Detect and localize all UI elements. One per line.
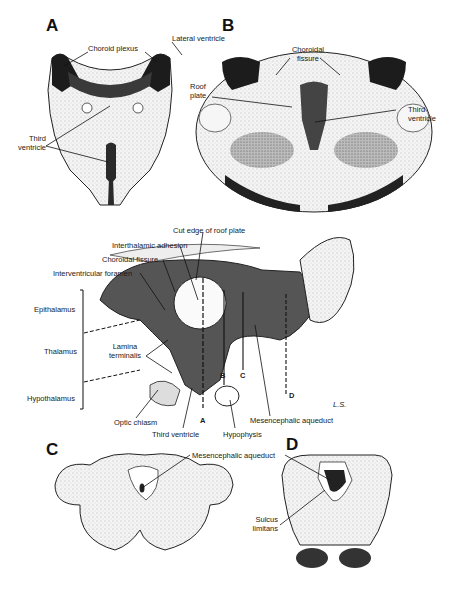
label-line-2: limitans xyxy=(253,524,278,533)
panel-b-drawing xyxy=(196,52,432,212)
label-interventricular-foramen: Interventricular foramen xyxy=(53,269,132,278)
label-hypophysis: Hypophysis xyxy=(223,430,262,439)
label-third-ventricle-a: Third ventricle xyxy=(12,134,46,152)
label-choroid-plexus: Choroid plexus xyxy=(88,44,138,53)
label-optic-chiasm: Optic chiasm xyxy=(114,418,157,427)
label-line-1: Roof xyxy=(190,82,206,91)
label-roof-plate: Roof plate xyxy=(190,82,206,100)
label-third-ventricle-b: Third ventricle xyxy=(408,105,436,123)
label-line-2: terminalis xyxy=(109,351,141,360)
label-choroidal-fissure: Choroidal fissure xyxy=(102,255,158,264)
label-hypothalamus: Hypothalamus xyxy=(27,394,75,403)
panel-c-letter: C xyxy=(46,440,58,460)
label-line-1: Lamina xyxy=(113,342,138,351)
label-ls: L.S. xyxy=(333,400,346,409)
panel-a-drawing xyxy=(48,54,172,205)
label-epithalamus: Epithalamus xyxy=(34,305,75,314)
panel-b-letter: B xyxy=(222,16,234,36)
label-choroidal-fissure-b: Choroidal fissure xyxy=(286,45,330,63)
section-marker-a: A xyxy=(200,416,205,425)
panel-d-letter: D xyxy=(286,435,298,455)
label-line-2: fissure xyxy=(297,54,319,63)
label-sulcus-limitans: Sulcus limitans xyxy=(244,515,278,533)
label-line-2: ventricle xyxy=(18,143,46,152)
section-marker-c: C xyxy=(240,371,245,380)
label-line-1: Sulcus xyxy=(255,515,278,524)
panel-c-drawing xyxy=(55,454,233,550)
section-marker-d: D xyxy=(289,391,294,400)
label-line-1: Choroidal xyxy=(292,45,324,54)
panel-d-drawing xyxy=(282,455,392,568)
label-line-1: Third xyxy=(29,134,46,143)
label-interthalamic-adhesion: Interthalamic adhesion xyxy=(112,241,187,250)
section-marker-b: B xyxy=(220,371,225,380)
label-line-2: ventricle xyxy=(408,114,436,123)
panel-a-letter: A xyxy=(46,16,58,36)
label-third-ventricle: Third ventricle xyxy=(152,430,199,439)
label-mesencephalic-aqueduct-c: Mesencephalic aqueduct xyxy=(192,451,275,460)
label-line-1: Third xyxy=(408,105,425,114)
label-mesencephalic-aqueduct-sagittal: Mesencephalic aqueduct xyxy=(250,416,333,425)
label-lateral-ventricle: Lateral ventricle xyxy=(172,34,225,43)
label-cut-edge-roof-plate: Cut edge of roof plate xyxy=(173,226,245,235)
anatomy-illustration xyxy=(0,0,450,590)
label-line-2: plate xyxy=(190,91,206,100)
label-thalamus: Thalamus xyxy=(44,347,77,356)
label-lamina-terminalis: Lamina terminalis xyxy=(104,342,146,360)
